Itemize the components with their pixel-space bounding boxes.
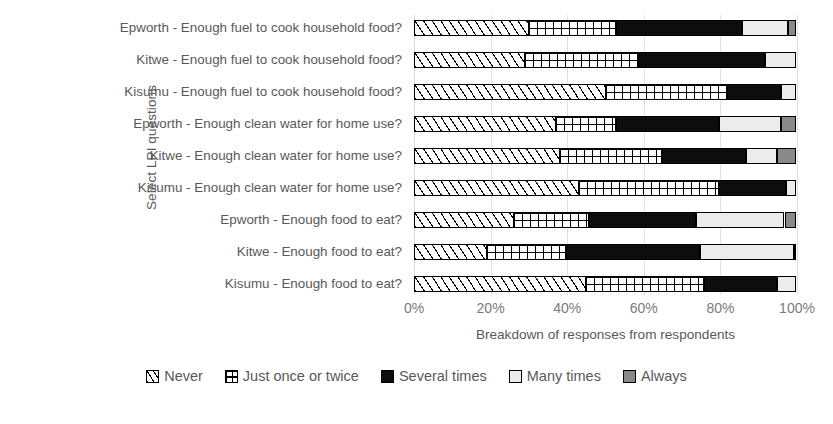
legend: NeverJust once or twiceSeveral timesMany… bbox=[0, 368, 833, 384]
x-axis-tick-label: 100% bbox=[779, 300, 815, 316]
legend-swatch-icon bbox=[381, 370, 394, 383]
bar-segment bbox=[719, 180, 786, 196]
bar-row bbox=[414, 20, 797, 36]
bar-segment bbox=[616, 20, 742, 36]
bar-segment bbox=[414, 148, 560, 164]
bar-segment bbox=[589, 212, 696, 228]
bar-segment bbox=[765, 52, 796, 68]
category-label-list: Epworth - Enough fuel to cook household … bbox=[46, 15, 408, 295]
bar-segment bbox=[700, 244, 794, 260]
bar-segment bbox=[704, 276, 777, 292]
bar-segment bbox=[524, 52, 639, 68]
legend-item[interactable]: Just once or twice bbox=[225, 368, 359, 384]
bar-segment bbox=[414, 20, 529, 36]
bar-segment bbox=[719, 116, 780, 132]
bar-segment bbox=[781, 84, 796, 100]
bar-segment bbox=[528, 20, 616, 36]
legend-item-label: Many times bbox=[527, 368, 601, 384]
bar-segment bbox=[742, 20, 788, 36]
bar-segment bbox=[696, 212, 784, 228]
bar-segment bbox=[616, 116, 719, 132]
bar-row bbox=[414, 84, 797, 100]
bar-segment bbox=[585, 276, 704, 292]
legend-item[interactable]: Many times bbox=[509, 368, 601, 384]
legend-item[interactable]: Always bbox=[623, 368, 687, 384]
bar-segment bbox=[785, 212, 796, 228]
bar-segment bbox=[781, 116, 796, 132]
bar-segment bbox=[777, 276, 796, 292]
bar-segment bbox=[414, 52, 525, 68]
bar-row bbox=[414, 244, 797, 260]
bar-row bbox=[414, 276, 797, 292]
stacked-bar-chart: Select LPI questions Epworth - Enough fu… bbox=[0, 0, 833, 424]
legend-item[interactable]: Never bbox=[146, 368, 203, 384]
legend-swatch-icon bbox=[509, 370, 522, 383]
bar-segment bbox=[746, 148, 777, 164]
x-axis-tick-label: 0% bbox=[404, 300, 424, 316]
category-label: Epworth - Enough food to eat? bbox=[220, 212, 402, 228]
category-label: Epworth - Enough fuel to cook household … bbox=[120, 20, 402, 36]
x-axis-tick-label: 20% bbox=[477, 300, 505, 316]
x-axis-tick-label: 80% bbox=[706, 300, 734, 316]
gridline bbox=[797, 15, 798, 295]
category-label: Kisumu - Enough fuel to cook household f… bbox=[124, 84, 402, 100]
bar-segment bbox=[788, 20, 796, 36]
legend-item-label: Several times bbox=[399, 368, 487, 384]
bar-segment bbox=[559, 148, 662, 164]
bar-segment bbox=[578, 180, 720, 196]
legend-item-label: Just once or twice bbox=[243, 368, 359, 384]
bar-segment bbox=[777, 148, 796, 164]
plot-area bbox=[414, 15, 797, 295]
bar-row bbox=[414, 180, 797, 196]
bar-segment bbox=[414, 84, 606, 100]
bar-segment bbox=[486, 244, 566, 260]
category-label: Kitwe - Enough fuel to cook household fo… bbox=[136, 52, 402, 68]
bar-segment bbox=[639, 52, 765, 68]
x-axis-tick-label: 40% bbox=[553, 300, 581, 316]
legend-swatch-icon bbox=[225, 370, 238, 383]
bar-segment bbox=[513, 212, 590, 228]
category-label: Kitwe - Enough food to eat? bbox=[237, 244, 402, 260]
bar-segment bbox=[414, 276, 586, 292]
x-axis-tick-label: 60% bbox=[630, 300, 658, 316]
category-label: Kitwe - Enough clean water for home use? bbox=[150, 148, 402, 164]
bar-segment bbox=[605, 84, 728, 100]
bar-row bbox=[414, 116, 797, 132]
bar-segment bbox=[555, 116, 616, 132]
legend-swatch-icon bbox=[146, 370, 159, 383]
category-label: Kisumu - Enough food to eat? bbox=[225, 276, 402, 292]
bar-segment bbox=[414, 180, 579, 196]
bar-row bbox=[414, 148, 797, 164]
bar-row bbox=[414, 212, 797, 228]
bar-row bbox=[414, 52, 797, 68]
x-axis-title: Breakdown of responses from respondents bbox=[414, 327, 797, 342]
bar-segment bbox=[414, 116, 556, 132]
x-axis-tick-labels: 0%20%40%60%80%100% bbox=[414, 300, 797, 320]
bar-segment bbox=[414, 244, 487, 260]
legend-item[interactable]: Several times bbox=[381, 368, 487, 384]
category-label: Epworth - Enough clean water for home us… bbox=[133, 116, 402, 132]
bar-segment bbox=[794, 244, 796, 260]
legend-swatch-icon bbox=[623, 370, 636, 383]
category-label: Kisumu - Enough clean water for home use… bbox=[138, 180, 402, 196]
bar-segment bbox=[727, 84, 781, 100]
bar-segment bbox=[786, 180, 796, 196]
bar-segment bbox=[662, 148, 746, 164]
legend-item-label: Never bbox=[164, 368, 203, 384]
legend-item-label: Always bbox=[641, 368, 687, 384]
bar-segment bbox=[566, 244, 700, 260]
bar-segment bbox=[414, 212, 514, 228]
